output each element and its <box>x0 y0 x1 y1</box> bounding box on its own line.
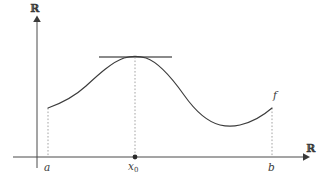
tick-label-b: b <box>268 162 275 173</box>
x-axis-label: ℝ <box>306 143 315 154</box>
function-curve <box>48 56 272 126</box>
tick-label-x0-subscript: 0 <box>134 166 138 174</box>
y-axis-label: ℝ <box>30 3 39 14</box>
y-axis-arrowhead <box>33 16 41 23</box>
x0-axis-point <box>133 155 138 160</box>
tick-label-x0: x0 <box>128 161 138 174</box>
function-graph-figure: ℝ ℝ a x0 b f <box>0 0 322 186</box>
tick-label-a: a <box>44 162 50 173</box>
function-name-label: f <box>273 90 277 101</box>
